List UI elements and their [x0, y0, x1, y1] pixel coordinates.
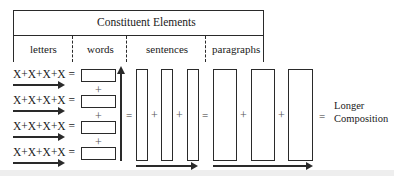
header-title: Constituent Elements — [97, 16, 196, 28]
up-arrow-icon — [120, 70, 122, 161]
paragraph-box — [213, 69, 237, 161]
paragraph-box — [288, 69, 313, 161]
column-divider-words-sentences — [126, 36, 127, 62]
column-divider-letters-words — [72, 36, 73, 62]
column-label-paragraphs: paragraphs — [212, 43, 260, 55]
sentence-box — [136, 69, 148, 161]
sentence-box — [161, 69, 173, 161]
equals-sign: = — [319, 111, 325, 122]
column-label-sentences: sentences — [146, 43, 188, 55]
column-label-words: words — [87, 43, 114, 55]
right-arrow-icon — [136, 165, 196, 167]
word-box — [81, 147, 116, 160]
right-arrow-icon — [213, 165, 311, 167]
plus-sign: + — [176, 109, 183, 121]
header-top-border — [13, 10, 264, 11]
sentence-box — [187, 69, 199, 161]
bottom-band — [0, 170, 394, 176]
result-line-2: Composition — [334, 112, 388, 125]
letters-expression: X+X+X+X = — [13, 68, 75, 80]
letters-expression: X+X+X+X = — [13, 146, 75, 158]
equals-sign: = — [202, 110, 208, 121]
result-line-1: Longer — [334, 99, 364, 112]
word-box — [81, 69, 116, 82]
equals-sign: = — [126, 110, 132, 121]
letters-expression: X+X+X+X = — [13, 94, 75, 106]
word-box — [81, 95, 116, 108]
right-arrow-icon — [13, 136, 63, 138]
plus-sign: + — [278, 109, 285, 121]
paragraph-box — [251, 69, 275, 161]
right-arrow-icon — [13, 162, 63, 164]
column-label-letters: letters — [30, 43, 57, 55]
plus-sign: + — [240, 109, 247, 121]
column-divider-sentences-paragraphs — [205, 36, 206, 62]
plus-sign: + — [151, 109, 158, 121]
right-arrow-icon — [13, 110, 63, 112]
word-box — [81, 121, 116, 134]
right-arrow-icon — [13, 84, 63, 86]
header-divider — [13, 35, 264, 36]
letters-expression: X+X+X+X = — [13, 120, 75, 132]
